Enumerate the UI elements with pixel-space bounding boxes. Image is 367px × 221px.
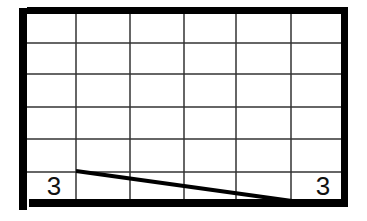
border-left: [19, 8, 27, 210]
border-top: [27, 7, 348, 14]
label-bottom-left: 3: [44, 173, 64, 199]
border-right: [341, 14, 348, 206]
label-bottom-right: 3: [313, 173, 333, 199]
border-bottom: [29, 199, 348, 207]
